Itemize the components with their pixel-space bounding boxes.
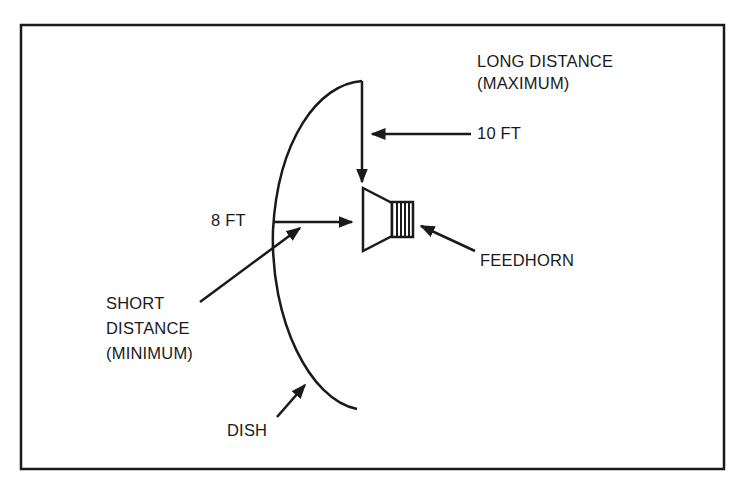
long-distance-qualifier: (MAXIMUM) [477,74,570,93]
dish-label: DISH [227,421,267,440]
eight-ft-label: 8 FT [211,211,246,230]
feedhorn-leader-arrow [421,226,475,251]
feedhorn-icon [363,188,413,251]
long-distance-label: LONG DISTANCE [477,52,613,71]
diagram-canvas [0,0,744,483]
short-distance-label: DISTANCE [106,319,190,338]
short-distance-leader-arrow [200,228,300,302]
dish-curve [273,81,362,409]
feedhorn-label: FEEDHORN [480,251,574,270]
ten-ft-label: 10 FT [477,124,521,143]
dish-leader-arrow [277,385,305,417]
short-label: SHORT [106,294,164,313]
short-distance-qualifier: (MINIMUM) [106,344,193,363]
